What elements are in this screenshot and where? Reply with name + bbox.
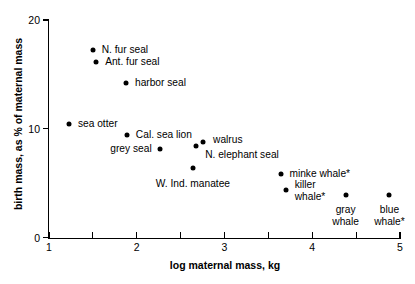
x-axis-tick (136, 232, 137, 238)
data-point-label: harbor seal (135, 77, 186, 89)
data-point-label: sea otter (78, 118, 118, 130)
data-point (125, 132, 130, 137)
data-point (193, 143, 198, 148)
y-axis-title: birth mass, as % of maternal mass (12, 15, 24, 233)
y-axis-tick (43, 237, 49, 238)
scatter-plot-figure: 1234501020 N. fur sealAnt. fur sealharbo… (0, 0, 415, 284)
x-axis-tick (268, 232, 269, 238)
x-axis-tick (312, 232, 313, 238)
data-point-label: Cal. sea lion (136, 129, 192, 141)
data-point (387, 193, 392, 198)
x-axis-tick-label: 1 (46, 241, 52, 253)
data-point-label: blue whale* (374, 204, 405, 227)
x-axis-tick (180, 232, 181, 238)
data-point-label: N. elephant seal (205, 150, 279, 162)
data-point-label: Ant. fur seal (105, 56, 159, 68)
x-axis-tick-label: 2 (134, 241, 140, 253)
x-axis-tick (224, 232, 225, 238)
x-axis-tick-label: 4 (309, 241, 315, 253)
y-axis-line (48, 20, 49, 239)
x-axis-title: log maternal mass, kg (49, 259, 401, 271)
data-point (94, 59, 99, 64)
y-axis-tick-label: 0 (16, 232, 40, 244)
data-point-label: N. fur seal (102, 45, 148, 57)
data-point (190, 165, 195, 170)
x-axis-tick (92, 232, 93, 238)
data-point (124, 81, 129, 86)
data-point-label: gray whale (332, 204, 359, 227)
y-axis-tick (43, 128, 49, 129)
data-point-label: killer whale* (295, 179, 326, 202)
data-point (158, 146, 163, 151)
x-axis-tick (356, 232, 357, 238)
data-point (90, 48, 95, 53)
data-point-label: walrus (213, 134, 242, 146)
data-point (343, 193, 348, 198)
data-point (67, 121, 72, 126)
data-point-label: W. Ind. manatee (156, 178, 230, 190)
data-point (200, 139, 205, 144)
data-point (278, 172, 283, 177)
x-axis-tick-label: 3 (222, 241, 228, 253)
data-point-label: grey seal (110, 143, 151, 155)
x-axis-tick (399, 232, 400, 238)
data-point (283, 188, 288, 193)
y-axis-tick (43, 19, 49, 20)
x-axis-tick-label: 5 (397, 241, 403, 253)
